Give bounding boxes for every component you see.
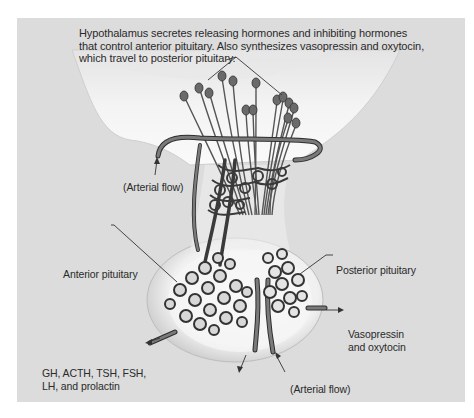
arterial-flow-bottom-label: (Arterial flow)	[290, 383, 350, 396]
hypothalamus-note-line-3: which travel to posterior pituitary.	[79, 52, 424, 65]
anterior-hormones-label: GH, ACTH, TSH, FSH, LH, and prolactin	[42, 367, 146, 392]
hypothalamus-note-line-2: that control anterior pituitary. Also sy…	[79, 40, 424, 53]
anterior-hormones-line-1: GH, ACTH, TSH, FSH,	[42, 367, 146, 380]
posterior-pituitary-label: Posterior pituitary	[336, 264, 416, 277]
arterial-flow-top-label: (Arterial flow)	[123, 181, 183, 194]
diagram-panel: Hypothalamus secretes releasing hormones…	[17, 18, 465, 402]
outflow-arrow-icon	[237, 366, 243, 373]
hypothalamus-note-line-1: Hypothalamus secretes releasing hormones…	[79, 27, 424, 40]
oxytocin-line: and oxytocin	[348, 341, 406, 354]
vasopressin-arrow-icon	[338, 307, 344, 313]
vasopressin-oxytocin-label: Vasopressin and oxytocin	[348, 328, 406, 353]
anterior-hormones-line-2: LH, and prolactin	[42, 380, 146, 393]
hypothalamus-note: Hypothalamus secretes releasing hormones…	[79, 27, 424, 65]
anterior-pituitary-label: Anterior pituitary	[63, 268, 138, 281]
vasopressin-line: Vasopressin	[348, 328, 406, 341]
